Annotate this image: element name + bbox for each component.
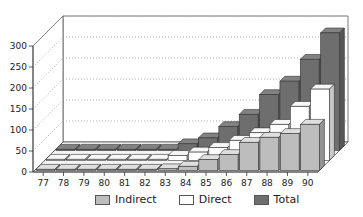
svg-text:250: 250 <box>10 62 27 72</box>
svg-text:90: 90 <box>302 178 314 188</box>
svg-text:200: 200 <box>10 83 27 93</box>
svg-text:0: 0 <box>21 167 27 177</box>
svg-text:300: 300 <box>10 41 27 51</box>
legend-swatch-total <box>254 195 269 205</box>
legend-label-indirect: Indirect <box>115 193 157 206</box>
svg-text:78: 78 <box>58 178 70 188</box>
svg-text:87: 87 <box>241 178 252 188</box>
svg-text:83: 83 <box>160 178 171 188</box>
svg-text:150: 150 <box>10 104 27 114</box>
legend-item-indirect: Indirect <box>95 193 157 206</box>
svg-text:50: 50 <box>16 146 28 156</box>
bar-indirect-90 <box>301 119 325 170</box>
legend-label-direct: Direct <box>199 193 232 206</box>
svg-text:84: 84 <box>180 178 192 188</box>
svg-text:80: 80 <box>99 178 111 188</box>
legend-swatch-indirect <box>95 195 110 205</box>
legend-item-total: Total <box>254 193 300 206</box>
svg-text:79: 79 <box>78 178 90 188</box>
svg-text:100: 100 <box>10 125 27 135</box>
legend-item-direct: Direct <box>179 193 232 206</box>
svg-text:85: 85 <box>200 178 211 188</box>
svg-text:81: 81 <box>119 178 130 188</box>
svg-text:82: 82 <box>139 178 150 188</box>
legend-label-total: Total <box>274 193 300 206</box>
svg-text:86: 86 <box>221 178 233 188</box>
svg-text:89: 89 <box>282 178 294 188</box>
svg-text:88: 88 <box>261 178 273 188</box>
legend: Indirect Direct Total <box>95 193 321 206</box>
legend-swatch-direct <box>179 195 194 205</box>
svg-text:77: 77 <box>37 178 48 188</box>
3d-bar-chart: 0501001502002503007778798081828384858687… <box>0 0 363 217</box>
